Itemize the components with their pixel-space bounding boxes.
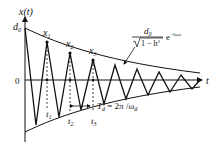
time-label-3: t3 [91, 116, 97, 127]
damped-oscillation-figure: x(t) t 0 d0 x1 x2 x3 t1 t2 t3 Td = 2π /ω… [0, 0, 220, 148]
x-axis-label: t [206, 75, 209, 86]
time-label-1: t1 [46, 109, 52, 120]
time-label-2: t2 [68, 116, 74, 127]
envelope-numerator: d0 [144, 26, 152, 37]
d0-label: d0 [13, 21, 21, 33]
peak-label-2: x2 [65, 38, 73, 50]
envelope-denominator: 1 − h2 [141, 39, 161, 48]
axis-dot-2 [69, 79, 72, 82]
peak-label-3: x3 [88, 45, 96, 57]
origin-label: 0 [15, 76, 20, 86]
peak-label-1: x1 [42, 27, 50, 39]
envelope-exponential: e−hωt [166, 32, 181, 42]
y-axis-label: x(t) [18, 6, 34, 18]
